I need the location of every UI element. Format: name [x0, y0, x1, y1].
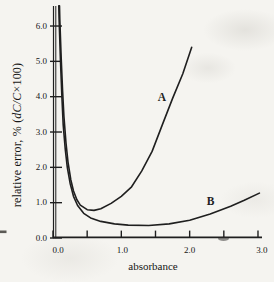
y-tick-label: 4.0 [19, 91, 47, 102]
x-tick-label: 1.0 [110, 245, 134, 256]
scan-artifact-smudge [218, 237, 229, 241]
y-tick-label: 1.0 [19, 197, 47, 208]
scan-artifact-edge-mark [0, 231, 7, 234]
y-tick-label: 0.0 [19, 233, 47, 244]
x-tick-label: 2.0 [178, 245, 202, 256]
curve-label-A: A [158, 91, 166, 103]
curve-B [59, 6, 260, 226]
y-axis-title-suffix: ×100) [10, 63, 24, 93]
x-tick-label: 0.0 [46, 245, 70, 256]
y-tick-label: 6.0 [19, 21, 47, 32]
curve-A [60, 6, 192, 211]
curve-layer [59, 6, 260, 226]
y-tick-label: 5.0 [19, 56, 47, 67]
y-tick-label: 2.0 [19, 162, 47, 173]
y-tick-label: 3.0 [19, 127, 47, 138]
photometric-error-figure: relative error, % (dC/C×100) absorbance … [0, 0, 274, 282]
curve-label-B: B [207, 195, 215, 207]
x-axis-title: absorbance [128, 260, 177, 272]
x-tick-label: 3.0 [250, 245, 274, 256]
